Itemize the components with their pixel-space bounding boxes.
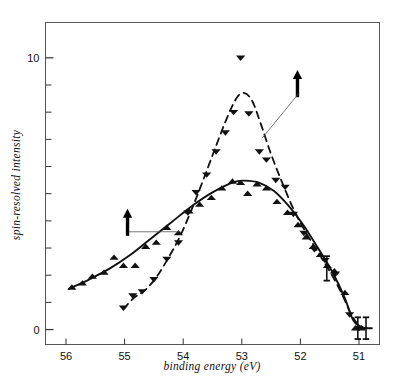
marker-spin-down [310, 247, 319, 252]
data-markers [67, 56, 366, 332]
marker-spin-down [229, 110, 238, 115]
spin-down-arrow-icon [293, 70, 302, 97]
curve-spin-up [69, 181, 372, 329]
marker-spin-down [236, 56, 245, 61]
marker-spin-up [162, 225, 171, 230]
marker-spin-down [149, 277, 158, 282]
y-tick-label: 0 [33, 324, 39, 336]
marker-spin-up [131, 263, 140, 268]
marker-spin-down [138, 289, 147, 294]
x-tick-label: 52 [294, 350, 306, 362]
curve-spin-down [123, 93, 360, 327]
marker-spin-up [243, 191, 252, 196]
marker-spin-down [221, 130, 230, 135]
x-tick-label: 51 [353, 350, 365, 362]
marker-spin-down [244, 111, 253, 116]
y-axis-tick-labels: 010 [27, 52, 39, 336]
spin-resolved-intensity-chart: 565554535251 010 binding energy (eV) spi… [0, 0, 398, 381]
x-tick-label: 55 [118, 350, 130, 362]
marker-spin-up [119, 263, 128, 268]
x-tick-label: 56 [60, 350, 72, 362]
y-axis-title: spin-resolved intensity [10, 129, 23, 240]
marker-spin-up [316, 252, 325, 257]
marker-spin-up [109, 254, 118, 259]
plot-frame [46, 23, 380, 345]
marker-spin-down [202, 172, 211, 177]
marker-spin-down [262, 157, 271, 162]
marker-spin-down [119, 306, 128, 311]
marker-spin-up [272, 199, 281, 204]
figure-panel: 565554535251 010 binding energy (eV) spi… [0, 0, 398, 381]
marker-spin-down [191, 190, 200, 195]
marker-spin-down [320, 258, 329, 263]
y-tick-label: 10 [27, 52, 39, 64]
fitted-curves [69, 93, 372, 328]
x-axis-title: binding energy (eV) [163, 360, 260, 373]
x-axis-ticks [66, 339, 359, 345]
marker-spin-down [255, 149, 264, 154]
y-axis-ticks [46, 58, 54, 330]
marker-spin-down [162, 257, 171, 262]
marker-spin-down [271, 178, 280, 183]
marker-spin-up [152, 240, 161, 245]
spin-down-arrow-leader-line [262, 93, 299, 138]
marker-spin-down [281, 185, 290, 190]
